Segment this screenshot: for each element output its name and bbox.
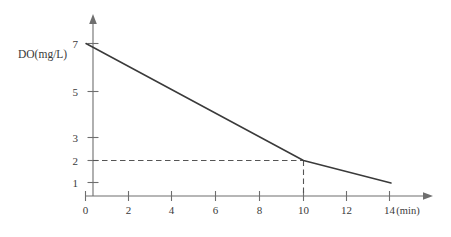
y-tick-label-3: 3 <box>73 132 79 144</box>
y-tick-label-5: 5 <box>73 86 79 98</box>
do-data-line <box>86 44 391 184</box>
x-tick-label-2: 2 <box>126 204 132 216</box>
y-tick-label-1: 1 <box>73 177 79 189</box>
y-tick-label-2: 2 <box>73 155 79 167</box>
x-tick-label-6: 6 <box>213 204 219 216</box>
x-tick-label-12: 12 <box>341 204 352 216</box>
x-tick-label-10: 10 <box>298 204 310 216</box>
x-tick-label-14: 14 <box>384 204 396 216</box>
x-tick-label-0: 0 <box>83 204 89 216</box>
y-axis-arrow-icon <box>89 14 97 24</box>
x-axis-arrow-icon <box>423 192 433 200</box>
x-axis-unit-label: (min) <box>396 205 420 217</box>
chart-page: 7 5 3 2 1 0 2 4 6 8 10 12 14 DO(mg/L) (m… <box>0 0 451 237</box>
y-tick-label-7: 7 <box>73 38 79 50</box>
x-tick-label-4: 4 <box>169 204 175 216</box>
dissolved-oxygen-line-chart: 7 5 3 2 1 0 2 4 6 8 10 12 14 DO(mg/L) (m… <box>0 0 451 237</box>
x-tick-label-8: 8 <box>257 204 263 216</box>
y-axis-label: DO(mg/L) <box>18 48 67 61</box>
